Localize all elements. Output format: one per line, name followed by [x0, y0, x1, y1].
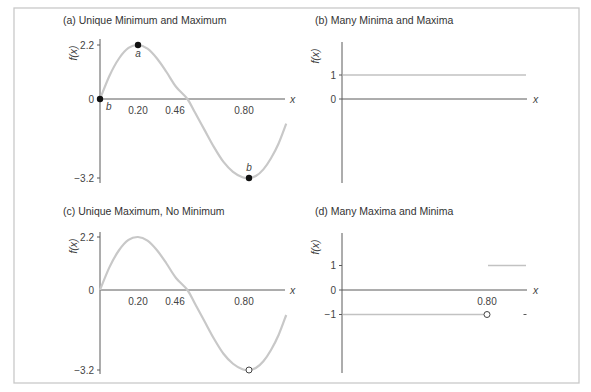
y-tick-label: −3.2	[74, 365, 94, 376]
panel-b: xf(x)10	[309, 42, 539, 183]
panel-d: xf(x)10−10.80	[309, 233, 539, 373]
y-tick-label: 1	[330, 70, 336, 81]
point-marker	[246, 175, 252, 181]
x-tick-label: 0.20	[128, 296, 148, 307]
y-tick-label: 2.2	[80, 40, 94, 51]
y-tick-label: 0	[88, 94, 94, 105]
x-tick-label: 0.46	[165, 105, 185, 116]
panel-a: xf(x)2.20−3.20.200.460.80bab	[67, 39, 296, 184]
y-tick-label: 0	[330, 94, 336, 105]
y-axis-label: f(x)	[309, 48, 321, 63]
figure: (a) Unique Minimum and Maximum (b) Many …	[0, 0, 591, 392]
point-label: b	[246, 162, 252, 173]
y-tick-label: 0	[330, 285, 336, 296]
panel-a-title: (a) Unique Minimum and Maximum	[63, 14, 227, 26]
x-tick-label: 0.20	[128, 105, 148, 116]
y-tick-label: −1	[325, 309, 337, 320]
x-axis-label: x	[289, 284, 296, 296]
y-axis-label: f(x)	[309, 239, 321, 254]
panel-b-title: (b) Many Minima and Maxima	[315, 14, 453, 26]
open-point-marker	[484, 312, 490, 318]
x-axis-label: x	[532, 93, 539, 105]
panel-c: xf(x)2.20−3.20.200.460.80	[67, 232, 296, 376]
y-tick-label: 1	[330, 260, 336, 271]
y-axis-label: f(x)	[67, 45, 79, 60]
open-point-marker	[246, 367, 252, 373]
y-axis-label: f(x)	[67, 238, 79, 253]
panel-d-title: (d) Many Maxima and Minima	[315, 205, 453, 217]
x-tick-label: 0.80	[477, 296, 497, 307]
panel-c-title: (c) Unique Maximum, No Minimum	[63, 205, 225, 217]
y-tick-label: 2.2	[80, 232, 94, 243]
x-tick-label: 0.80	[234, 296, 254, 307]
x-axis-label: x	[532, 284, 539, 296]
x-tick-label: 0.80	[234, 105, 254, 116]
y-tick-label: 0	[88, 285, 94, 296]
point-label: a	[135, 48, 141, 59]
y-tick-label: −3.2	[74, 173, 94, 184]
point-marker	[97, 96, 103, 102]
x-tick-label: 0.46	[165, 296, 185, 307]
figure-frame	[14, 8, 579, 383]
point-label: b	[106, 101, 112, 112]
x-axis-label: x	[289, 93, 296, 105]
